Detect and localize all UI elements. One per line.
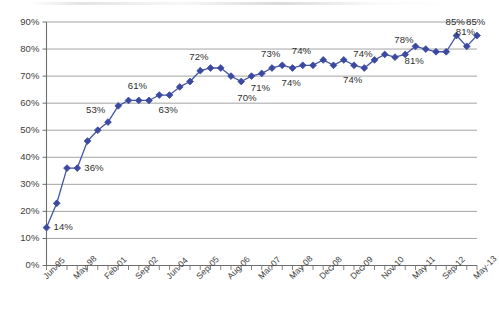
- data-point-marker: [238, 78, 245, 85]
- data-value-label: 74%: [353, 48, 373, 59]
- data-point-marker: [74, 165, 81, 172]
- y-axis-tick-label: 20%: [20, 205, 39, 216]
- data-point-marker: [289, 65, 296, 72]
- data-value-label: 74%: [292, 45, 312, 56]
- data-value-label: 71%: [251, 82, 271, 93]
- data-point-marker: [392, 54, 399, 61]
- data-point-marker: [64, 165, 71, 172]
- data-point-marker: [320, 56, 327, 63]
- data-point-marker: [299, 62, 306, 69]
- data-value-label: 74%: [282, 77, 302, 88]
- y-axis-tick-label: 70%: [20, 70, 39, 81]
- data-point-marker: [207, 65, 214, 72]
- y-axis-tick-label: 60%: [20, 97, 39, 108]
- y-axis-tick-label: 90%: [20, 16, 39, 27]
- data-point-marker: [351, 62, 358, 69]
- data-value-label: 36%: [84, 162, 104, 173]
- data-point-marker: [156, 92, 163, 99]
- data-value-label: 53%: [86, 104, 106, 115]
- data-value-label: 78%: [394, 34, 414, 45]
- data-point-marker: [53, 200, 60, 207]
- data-point-marker: [422, 46, 429, 53]
- data-point-marker: [43, 224, 50, 231]
- data-point-marker: [269, 65, 276, 72]
- data-point-marker: [310, 62, 317, 69]
- data-point-marker: [248, 73, 255, 80]
- data-value-label: 85%: [466, 16, 486, 27]
- data-point-marker: [381, 51, 388, 58]
- data-value-label: 63%: [159, 104, 179, 115]
- data-value-label: 74%: [343, 74, 363, 85]
- y-axis-tick-label: 50%: [20, 124, 39, 135]
- y-axis-tick-label: 40%: [20, 151, 39, 162]
- data-value-label: 72%: [189, 51, 209, 62]
- y-axis-tick-label: 80%: [20, 43, 39, 54]
- data-point-marker: [279, 62, 286, 69]
- y-axis-tick-label: 10%: [20, 232, 39, 243]
- data-value-label: 81%: [456, 26, 476, 37]
- data-value-label: 85%: [446, 16, 466, 27]
- y-axis-tick-label: 0%: [26, 259, 40, 270]
- data-value-label: 81%: [405, 55, 425, 66]
- data-point-marker: [340, 56, 347, 63]
- data-point-marker: [330, 62, 337, 69]
- data-value-label: 61%: [128, 80, 148, 91]
- data-value-label: 14%: [54, 221, 74, 232]
- data-value-label: 73%: [261, 48, 281, 59]
- y-axis-tick-label: 30%: [20, 178, 39, 189]
